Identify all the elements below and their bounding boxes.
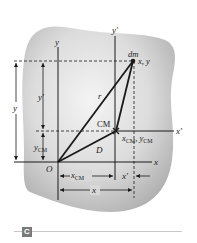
dm-label: dm [128,49,138,59]
cm-label: CM [97,119,111,129]
mass-element-point [131,59,136,64]
panel-divider [14,231,182,232]
dim-x-prime-label: x′ [121,171,129,181]
panel-label-badge: C [22,227,32,237]
dim-x-total-label: x [91,185,96,195]
x-axis-label: x [153,157,158,167]
y-prime-axis-label: y′ [111,25,119,35]
center-of-mass-diagram: y y′ x x′ O dm x, y CM xCM, yCM r D y y′… [0,0,197,243]
x-prime-axis-label: x′ [175,126,183,136]
dm-coords-label: x, y [137,56,150,66]
origin-label: O [46,164,53,174]
y-axis-label: y [54,37,59,47]
dim-y-total-label: y [12,103,17,113]
dim-y-prime-label: y′ [37,92,45,102]
vector-D-label: D [95,145,103,155]
